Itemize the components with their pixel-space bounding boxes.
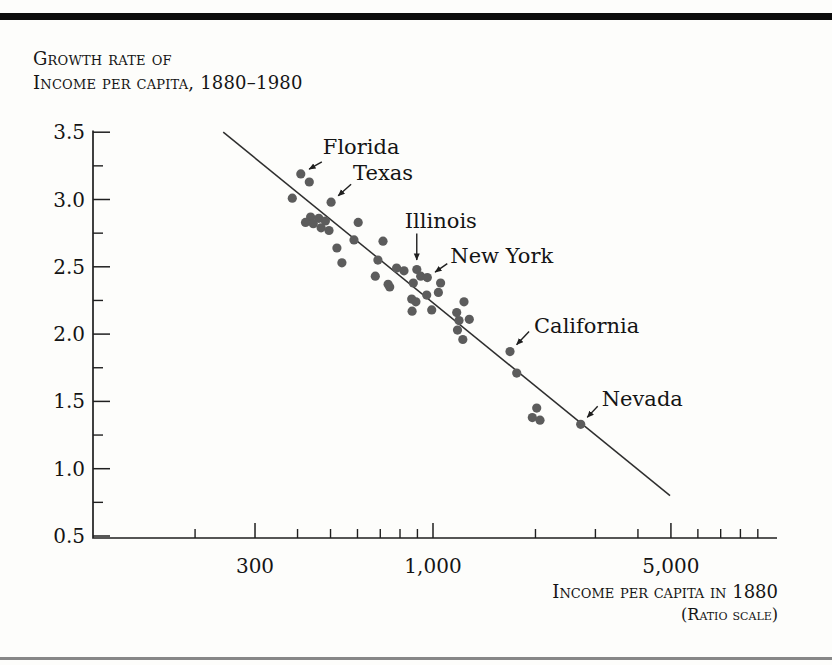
data-point	[458, 335, 467, 344]
annotation-label-illinois: Illinois	[405, 209, 477, 233]
annotation-label-nevada: Nevada	[602, 387, 683, 411]
data-point	[427, 305, 436, 314]
scatter-plot: 0.51.01.52.02.53.03.53001,0005,000Florid…	[0, 0, 832, 665]
data-point	[305, 177, 314, 186]
data-point	[349, 235, 358, 244]
data-point	[317, 223, 326, 232]
y-tick-label: 0.5	[53, 524, 85, 548]
data-point	[423, 273, 432, 282]
data-point	[371, 272, 380, 281]
annotation-label-florida: Florida	[323, 135, 400, 159]
y-tick-label: 1.0	[53, 457, 85, 481]
data-point	[354, 218, 363, 227]
y-tick-label: 1.5	[53, 389, 85, 413]
y-tick-label: 2.0	[53, 322, 85, 346]
x-tick-label: 300	[236, 554, 274, 578]
data-point	[332, 243, 341, 252]
data-point	[373, 256, 382, 265]
data-point	[535, 416, 544, 425]
y-tick-label: 3.0	[53, 188, 85, 212]
data-point	[301, 218, 310, 227]
data-point	[576, 420, 585, 429]
data-point	[296, 169, 305, 178]
figure-page: Growth rate of Income per capita, 1880–1…	[0, 0, 832, 665]
data-point	[408, 307, 417, 316]
annotation-label-texas: Texas	[353, 161, 413, 185]
data-point	[337, 258, 346, 267]
data-point	[453, 326, 462, 335]
data-point	[512, 369, 521, 378]
data-point	[327, 198, 336, 207]
data-point	[288, 194, 297, 203]
data-point	[465, 315, 474, 324]
data-point	[384, 280, 393, 289]
y-tick-label: 2.5	[53, 255, 85, 279]
data-point	[409, 278, 418, 287]
data-point	[452, 308, 461, 317]
annotation-arrow-texas	[338, 184, 351, 196]
annotation-label-california: California	[534, 314, 639, 338]
x-tick-label: 1,000	[404, 554, 461, 578]
data-point	[411, 297, 420, 306]
data-point	[505, 347, 514, 356]
x-tick-label: 5,000	[642, 554, 699, 578]
x-axis-title: Income per capita in 1880 (Ratio scale)	[552, 580, 778, 626]
bottom-rule	[0, 657, 832, 660]
annotation-arrow-florida	[309, 162, 322, 169]
data-point	[399, 266, 408, 275]
x-axis-title-line1: Income per capita in 1880	[552, 580, 778, 603]
data-point	[378, 237, 387, 246]
data-point	[459, 297, 468, 306]
annotation-arrow-california	[517, 332, 529, 345]
data-point	[454, 316, 463, 325]
data-point	[309, 219, 318, 228]
annotation-arrow-new-york	[435, 264, 447, 273]
x-axis-subtitle: (Ratio scale)	[552, 603, 778, 626]
data-point	[324, 226, 333, 235]
data-point	[436, 278, 445, 287]
data-point	[422, 291, 431, 300]
y-tick-label: 3.5	[53, 120, 85, 144]
data-point	[532, 404, 541, 413]
data-point	[434, 288, 443, 297]
axis-frame	[93, 131, 777, 539]
annotation-label-new-york: New York	[450, 244, 553, 268]
annotation-arrow-nevada	[587, 406, 597, 417]
